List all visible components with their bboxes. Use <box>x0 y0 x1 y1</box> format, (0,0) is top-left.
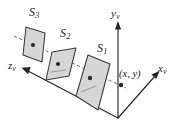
surface-2-group <box>46 48 76 80</box>
surface-2-label-subscript: 2 <box>66 32 70 41</box>
x-axis-label-subscript: v <box>163 67 167 76</box>
surface-2-pierce-dot <box>56 62 60 66</box>
y-axis-label: yv <box>111 8 120 21</box>
z-axis-arrowhead <box>22 67 31 74</box>
diagram-canvas <box>0 0 174 140</box>
z-axis-label: zv <box>8 60 16 73</box>
projection-point-dot <box>119 83 123 87</box>
surface-2-polygon <box>46 48 76 80</box>
surface-1-polygon <box>76 55 110 110</box>
surface-3-pierce-dot <box>31 43 35 47</box>
surface-1-group <box>76 55 110 110</box>
y-axis-arrowhead <box>115 21 121 30</box>
surface-1-label-subscript: 1 <box>103 47 107 56</box>
surface-3-label-subscript: 3 <box>35 11 39 20</box>
surface-1-label: S1 <box>97 42 107 56</box>
figure-container: S1 S2 S3 yv xv zv (x, y) <box>0 0 174 140</box>
surface-3-group <box>23 27 45 62</box>
surface-1-pierce-dot <box>88 76 92 80</box>
x-axis-label: xv <box>158 63 167 76</box>
x-axis-line <box>118 76 155 118</box>
z-axis-label-subscript: v <box>12 64 16 73</box>
surface-3-label: S3 <box>29 6 39 20</box>
y-axis-label-subscript: v <box>116 12 120 21</box>
projection-point-group <box>119 83 123 87</box>
projection-point-label: (x, y) <box>119 69 141 80</box>
surface-2-label: S2 <box>60 27 70 41</box>
